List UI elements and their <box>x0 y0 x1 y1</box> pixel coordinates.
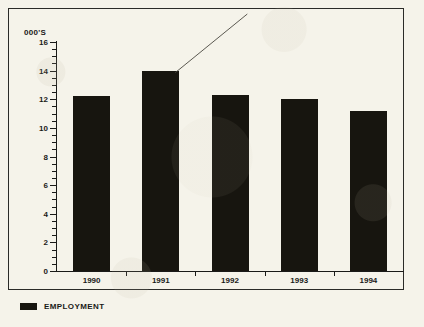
y-axis-major-tick <box>50 271 56 272</box>
bar <box>212 95 249 271</box>
y-axis-minor-tick <box>52 264 56 265</box>
bar <box>350 111 387 271</box>
y-axis-tick-label: 16 <box>2 38 48 47</box>
y-axis-tick-label: 10 <box>2 123 48 132</box>
x-axis-tick <box>195 272 196 276</box>
x-axis-tick <box>265 272 266 276</box>
y-axis-major-tick <box>50 185 56 186</box>
y-axis-minor-tick <box>52 142 56 143</box>
bar-chart: 000'S 0246810121416 19901991199219931994… <box>0 0 424 327</box>
y-axis-line <box>56 41 57 272</box>
y-axis-tick-label: 0 <box>2 267 48 276</box>
x-axis-tick-label: 1992 <box>221 276 239 285</box>
y-axis-major-tick <box>50 242 56 243</box>
y-axis-minor-tick <box>52 85 56 86</box>
y-axis-minor-tick <box>52 199 56 200</box>
y-axis-minor-tick <box>52 221 56 222</box>
x-axis-tick <box>126 272 127 276</box>
y-axis-minor-tick <box>52 192 56 193</box>
x-axis-tick <box>334 272 335 276</box>
y-axis-minor-tick <box>52 171 56 172</box>
y-axis-minor-tick <box>52 207 56 208</box>
y-axis-minor-tick <box>52 235 56 236</box>
y-axis-minor-tick <box>52 114 56 115</box>
bar <box>142 71 179 271</box>
x-axis-tick-label: 1994 <box>359 276 377 285</box>
bar <box>281 99 318 271</box>
y-axis-major-tick <box>50 71 56 72</box>
bar <box>73 96 110 271</box>
y-axis-tick-label: 4 <box>2 209 48 218</box>
y-axis-minor-tick <box>52 121 56 122</box>
y-axis-major-tick <box>50 214 56 215</box>
y-axis-major-tick <box>50 42 56 43</box>
y-axis-tick-label: 8 <box>2 152 48 161</box>
y-axis-tick-label: 6 <box>2 181 48 190</box>
y-axis-major-tick <box>50 128 56 129</box>
y-axis-minor-tick <box>52 56 56 57</box>
y-axis-tick-label: 12 <box>2 95 48 104</box>
x-axis-tick-label: 1991 <box>152 276 170 285</box>
legend-swatch-employment <box>20 303 37 310</box>
y-axis-minor-tick <box>52 149 56 150</box>
y-axis-tick-label: 14 <box>2 66 48 75</box>
legend-label-employment: EMPLOYMENT <box>44 302 104 311</box>
y-axis-minor-tick <box>52 63 56 64</box>
y-axis-minor-tick <box>52 78 56 79</box>
y-axis-tick-label: 2 <box>2 238 48 247</box>
x-axis-tick-label: 1993 <box>290 276 308 285</box>
y-axis-minor-tick <box>52 250 56 251</box>
y-axis-minor-tick <box>52 257 56 258</box>
y-axis-minor-tick <box>52 135 56 136</box>
y-axis-tick-labels: 0246810121416 <box>0 0 48 327</box>
y-axis-minor-tick <box>52 92 56 93</box>
chart-legend: EMPLOYMENT <box>20 302 104 311</box>
y-axis-unit-label: 000'S <box>24 28 46 37</box>
y-axis-minor-tick <box>52 164 56 165</box>
x-axis-tick-label: 1990 <box>83 276 101 285</box>
y-axis-minor-tick <box>52 106 56 107</box>
y-axis-major-tick <box>50 157 56 158</box>
x-axis-line <box>50 271 404 272</box>
y-axis-minor-tick <box>52 228 56 229</box>
y-axis-minor-tick <box>52 178 56 179</box>
y-axis-major-tick <box>50 99 56 100</box>
plot-area <box>57 42 403 271</box>
y-axis-minor-tick <box>52 49 56 50</box>
